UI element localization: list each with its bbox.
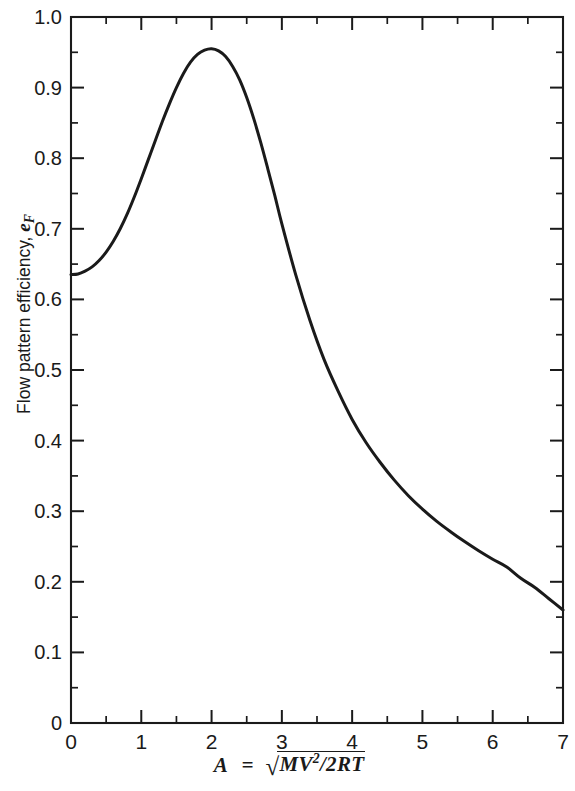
y-tick-label: 0.1 — [34, 641, 62, 663]
x-axis-title-variable: A — [210, 753, 232, 777]
y-tick-label: 0.4 — [34, 430, 62, 452]
radicand-v: V — [298, 752, 312, 776]
data-series-line — [71, 49, 563, 610]
x-tick-label: 3 — [276, 730, 288, 753]
y-axis-ticks — [71, 17, 84, 723]
y-axis-title: Flow pattern efficiency, eF — [13, 104, 35, 524]
y-axis-tick-labels: 00.10.20.30.40.50.60.70.80.91.0 — [34, 6, 62, 734]
square-root-icon: √MV2/2RT — [263, 752, 365, 781]
y-axis-title-symbol: eF — [13, 214, 34, 232]
chart-figure: 00.10.20.30.40.50.60.70.80.91.0 01234567… — [0, 0, 575, 791]
plot-area: 00.10.20.30.40.50.60.70.80.91.0 01234567 — [0, 0, 575, 791]
y-tick-label: 0.5 — [34, 359, 62, 381]
y-tick-label: 0.9 — [34, 77, 62, 99]
y-tick-label: 0.2 — [34, 571, 62, 593]
plot-frame — [71, 17, 563, 723]
y-tick-label: 1.0 — [34, 6, 62, 28]
x-tick-label: 4 — [346, 730, 358, 753]
x-axis-tick-labels: 01234567 — [65, 730, 569, 753]
x-axis-ticks — [71, 710, 563, 723]
x-axis-title-equals: = — [238, 753, 258, 777]
x-tick-label: 0 — [65, 730, 77, 753]
radicand-m: M — [279, 752, 298, 776]
y-tick-label: 0 — [51, 712, 62, 734]
x-tick-label: 7 — [557, 730, 569, 753]
x-axis-title: A = √MV2/2RT — [0, 752, 575, 781]
y-tick-label: 0.3 — [34, 500, 62, 522]
x-axis-ticks-top — [71, 17, 563, 30]
y-axis-title-subscript: F — [22, 214, 37, 223]
y-axis-title-text: Flow pattern efficiency, — [14, 237, 34, 414]
radicand: MV2/2RT — [277, 751, 365, 777]
x-tick-label: 1 — [135, 730, 147, 753]
radicand-denominator: 2RT — [326, 752, 364, 776]
y-tick-label: 0.7 — [34, 218, 62, 240]
x-tick-label: 2 — [206, 730, 218, 753]
y-tick-label: 0.8 — [34, 147, 62, 169]
x-tick-label: 6 — [487, 730, 499, 753]
y-axis-ticks-right — [550, 17, 563, 723]
radicand-exponent: 2 — [313, 751, 320, 766]
x-tick-label: 5 — [417, 730, 429, 753]
y-tick-label: 0.6 — [34, 288, 62, 310]
